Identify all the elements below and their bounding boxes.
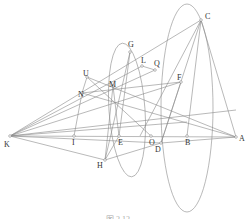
line-KA2 (10, 110, 236, 136)
label-H: H (97, 161, 103, 170)
line-NM (82, 82, 181, 93)
line-CE (140, 20, 201, 136)
line-KF (10, 82, 181, 136)
large-ellipse (161, 4, 213, 212)
label-F: F (177, 73, 182, 82)
line-DA (161, 137, 236, 143)
geometry-diagram: K A C G L Q F U N M I E O B H D 图 2.12 (0, 0, 250, 219)
label-A: A (239, 134, 245, 143)
label-I: I (72, 138, 75, 147)
line-KA (10, 136, 236, 137)
label-U: U (83, 69, 89, 78)
label-Q: Q (154, 59, 160, 68)
figure-caption: 图 2.12 (106, 215, 130, 219)
label-C: C (205, 12, 210, 21)
label-L: L (141, 56, 146, 65)
label-M: M (109, 80, 116, 89)
line-NI (74, 93, 82, 136)
line-CA (201, 20, 236, 137)
line-ME (113, 86, 119, 136)
line-DF (161, 82, 181, 143)
label-E: E (118, 138, 123, 147)
label-B: B (185, 138, 190, 147)
label-D: D (155, 145, 161, 154)
label-N: N (78, 90, 84, 99)
label-G: G (128, 40, 134, 49)
line-CB (187, 20, 201, 136)
line-GE (119, 52, 130, 136)
label-K: K (4, 140, 10, 149)
